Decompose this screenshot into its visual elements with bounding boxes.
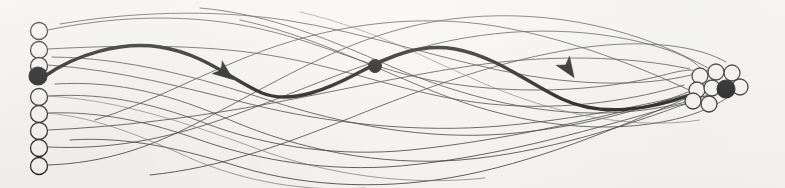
target-node-R1[interactable] bbox=[692, 68, 708, 84]
waypoint-dot-W1 bbox=[369, 60, 382, 73]
source-node-L5[interactable] bbox=[31, 89, 48, 106]
source-node-L4-active[interactable] bbox=[29, 67, 47, 85]
target-node-R9-active[interactable] bbox=[717, 80, 735, 98]
waypoint-dot-layer bbox=[369, 60, 382, 73]
source-node-L7[interactable] bbox=[31, 123, 48, 140]
source-node-L1[interactable] bbox=[31, 23, 48, 40]
target-node-R8[interactable] bbox=[685, 93, 701, 109]
target-node-R2[interactable] bbox=[708, 64, 724, 80]
graph-trajectory-svg: Graph trajectory diagram Scanned line dr… bbox=[0, 0, 785, 188]
target-node-R3[interactable] bbox=[724, 65, 740, 81]
diagram-canvas: Graph trajectory diagram Scanned line dr… bbox=[0, 0, 785, 188]
target-node-R7[interactable] bbox=[701, 96, 717, 112]
source-node-L6[interactable] bbox=[31, 106, 48, 123]
source-node-L9[interactable] bbox=[31, 158, 48, 175]
source-node-column[interactable] bbox=[29, 23, 48, 175]
source-node-L8[interactable] bbox=[31, 140, 48, 157]
source-node-L2[interactable] bbox=[31, 42, 48, 59]
